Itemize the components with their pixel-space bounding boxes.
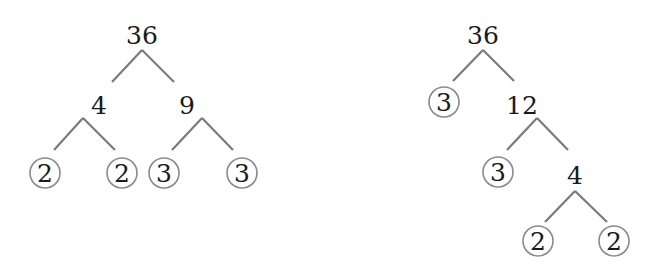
edge <box>54 118 83 150</box>
prime-factor-label: 3 <box>234 159 250 188</box>
prime-factor-circle: 2 <box>107 158 137 188</box>
prime-factor-circle: 3 <box>149 158 179 188</box>
prime-factor-label: 2 <box>606 227 622 256</box>
prime-factor-circle: 3 <box>227 158 257 188</box>
edge <box>537 118 568 150</box>
edge <box>545 191 575 222</box>
edge <box>575 191 607 222</box>
tree-node: 4 <box>91 91 107 120</box>
prime-factor-label: 3 <box>490 158 506 187</box>
edge <box>83 118 115 150</box>
factor-tree-right: 36 3 12 3 4 2 2 <box>429 21 629 256</box>
edge <box>453 50 483 81</box>
prime-factor-circle: 2 <box>30 158 60 188</box>
factor-tree-canvas: 36 4 9 2 2 3 3 36 3 <box>0 0 670 277</box>
edge <box>142 50 174 82</box>
factor-tree-left: 36 4 9 2 2 3 3 <box>30 21 257 188</box>
prime-factor-circle: 3 <box>483 157 513 187</box>
tree-node-root: 36 <box>126 21 158 50</box>
tree-node-root: 36 <box>467 21 499 50</box>
edge <box>507 118 537 150</box>
tree-node: 9 <box>179 91 195 120</box>
prime-factor-label: 2 <box>114 159 130 188</box>
prime-factor-circle: 2 <box>599 226 629 256</box>
prime-factor-label: 2 <box>530 227 546 256</box>
tree-node: 12 <box>506 91 538 120</box>
edge <box>483 50 514 81</box>
prime-factor-circle: 3 <box>429 87 459 117</box>
prime-factor-circle: 2 <box>523 226 553 256</box>
edge <box>112 50 142 82</box>
tree-node: 4 <box>567 161 583 190</box>
prime-factor-label: 3 <box>436 88 452 117</box>
prime-factor-label: 3 <box>156 159 172 188</box>
prime-factor-label: 2 <box>37 159 53 188</box>
edge <box>172 118 202 150</box>
edge <box>202 118 233 150</box>
